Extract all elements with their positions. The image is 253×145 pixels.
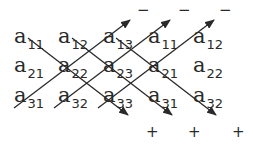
plus-sign-3: + [232,125,245,140]
entry-letter: a [58,24,71,48]
entry-a33: a33 [103,85,133,106]
entry-a31-repeat: a31 [148,85,178,106]
plus-sign-1: + [146,125,159,140]
entry-subscript: 12 [207,37,224,52]
entry-letter: a [148,83,161,107]
entry-subscript: 12 [72,37,89,52]
entry-letter: a [103,24,116,48]
entry-a32-repeat: a32 [193,85,223,106]
minus-sign-2: − [178,3,191,18]
entry-a22-repeat: a22 [193,55,223,76]
entry-letter: a [103,53,116,77]
sarrus-diagram: a11 a12 a13 a11 a12 a21 a22 a23 a21 a22 … [0,0,253,145]
entry-a13: a13 [103,26,133,47]
entry-a23: a23 [103,55,133,76]
entry-subscript: 33 [117,96,134,111]
entry-subscript: 11 [28,37,45,52]
entry-a11: a11 [14,26,44,47]
entry-letter: a [14,83,27,107]
entry-letter: a [58,53,71,77]
entry-subscript: 13 [117,37,134,52]
entry-a21: a21 [14,55,44,76]
entry-letter: a [193,53,206,77]
entry-letter: a [103,83,116,107]
entry-letter: a [14,53,27,77]
entry-letter: a [148,53,161,77]
entry-subscript: 32 [207,96,224,111]
entry-letter: a [148,24,161,48]
entry-a22: a22 [58,55,88,76]
entry-subscript: 21 [28,66,45,81]
entry-letter: a [58,83,71,107]
entry-a12: a12 [58,26,88,47]
entry-subscript: 21 [162,66,179,81]
entry-subscript: 23 [117,66,134,81]
entry-letter: a [14,24,27,48]
minus-sign-1: − [137,3,150,18]
entry-letter: a [193,24,206,48]
entry-a31: a31 [14,85,44,106]
entry-a11-repeat: a11 [148,26,178,47]
entry-a12-repeat: a12 [193,26,223,47]
entry-subscript: 22 [72,66,89,81]
entry-subscript: 11 [162,37,179,52]
entry-a21-repeat: a21 [148,55,178,76]
entry-subscript: 32 [72,96,89,111]
entry-letter: a [193,83,206,107]
entry-subscript: 31 [162,96,179,111]
entry-subscript: 22 [207,66,224,81]
entry-a32: a32 [58,85,88,106]
entry-subscript: 31 [28,96,45,111]
plus-sign-2: + [188,125,201,140]
minus-sign-3: − [219,3,232,18]
